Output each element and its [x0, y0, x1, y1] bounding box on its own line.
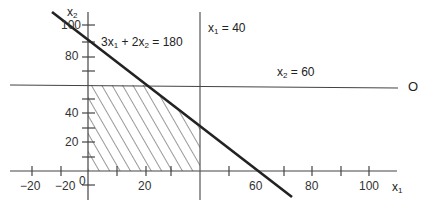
x-tick-label-20: 20 [138, 180, 151, 192]
constraint-label-combined: 3x1 + 2x2 = 180 [101, 36, 183, 50]
x-tick-label-60: 60 [249, 180, 262, 192]
y-tick-label-20: 20 [65, 136, 78, 148]
constraint-label-x1-eq-40: x1 = 40 [208, 22, 245, 36]
y-tick-label-80: 80 [65, 50, 78, 62]
y-tick-label-100: 100 [61, 19, 81, 31]
y-tick-label-40: 40 [65, 107, 78, 119]
constraint-x2-eq-60 [10, 85, 398, 88]
x1-axis-label: x1x1 [392, 181, 402, 195]
x-tick-label-neg20: −20 [20, 180, 40, 192]
origin-label: 0 [79, 175, 86, 187]
right-marker-label: O [408, 80, 418, 93]
constraint-label-x2-eq-60: x2 = 60 [277, 66, 314, 80]
y-tick-label-neg20: −20 [55, 180, 75, 192]
x-tick-label-100: 100 [359, 180, 379, 192]
x-tick-label-80: 80 [305, 180, 318, 192]
feasible-region [88, 85, 200, 171]
